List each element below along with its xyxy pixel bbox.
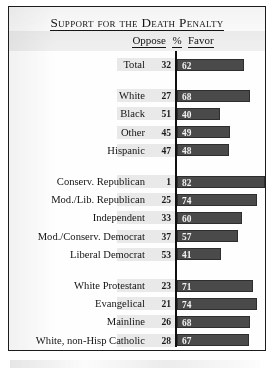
chart-row: Black5140 [9,106,265,121]
row-label: White Protestant [11,278,145,293]
row-label: Black [11,106,145,121]
row-label: Total [11,57,145,72]
row-label: Evangelical [11,296,145,311]
row-label: Other [11,125,145,140]
favor-value: 82 [182,177,191,189]
chart-row: Other4549 [9,125,265,140]
chart-row: White Protestant2371 [9,278,265,293]
row-label: Liberal Democrat [11,247,145,262]
oppose-value: 23 [147,278,171,293]
favor-value: 68 [182,91,191,103]
oppose-value: 21 [147,296,171,311]
favor-bar: 40 [177,108,220,120]
row-label: Mod./Conserv. Democrat [11,229,145,244]
oppose-value: 32 [147,57,171,72]
favor-value: 74 [182,195,191,207]
row-label: Mod./Lib. Republican [11,192,145,207]
chart-row: Mod./Lib. Republican2574 [9,192,265,207]
oppose-value: 27 [147,88,171,103]
oppose-value: 37 [147,229,171,244]
row-label: Independent [11,210,145,225]
row-label: White, non-Hisp Catholic [11,333,145,348]
favor-value: 48 [182,145,191,157]
favor-value: 62 [182,60,191,72]
favor-value: 57 [182,231,191,243]
column-header-favor: Favor [188,34,230,48]
chart-row: Independent3360 [9,210,265,225]
favor-bar: 67 [177,334,249,346]
favor-bar: 71 [177,280,253,292]
favor-bar: 49 [177,126,230,138]
favor-bar: 57 [177,230,238,242]
row-label: Hispanic [11,143,145,158]
column-header-row: Oppose % Favor [9,34,265,48]
favor-value: 68 [182,317,191,329]
column-header-oppose: Oppose [110,34,166,48]
chart-row: Mainline2668 [9,314,265,329]
favor-bar: 62 [177,59,244,71]
chart-row: Conserv. Republican182 [9,174,265,189]
oppose-value: 47 [147,143,171,158]
oppose-value: 26 [147,314,171,329]
favor-bar: 48 [177,144,229,156]
favor-value: 40 [182,109,191,121]
favor-bar: 60 [177,212,242,224]
favor-value: 74 [182,299,191,311]
favor-value: 41 [182,249,191,261]
chart-row: Liberal Democrat5341 [9,247,265,262]
chart-row: White2768 [9,88,265,103]
oppose-value: 45 [147,125,171,140]
chart-title: Support for the Death Penalty [9,15,265,31]
chart-row: Total3262 [9,57,265,72]
chart-title-text: Support for the Death Penalty [50,15,223,31]
favor-bar: 68 [177,316,250,328]
chart-row: Mod./Conserv. Democrat3757 [9,229,265,244]
oppose-value: 25 [147,192,171,207]
chart-row: White, non-Hisp Catholic2867 [9,333,265,348]
row-label: Conserv. Republican [11,174,145,189]
favor-bar: 74 [177,298,257,310]
favor-value: 60 [182,213,191,225]
chart-row: Evangelical2174 [9,296,265,311]
oppose-value: 53 [147,247,171,262]
favor-bar: 68 [177,90,250,102]
oppose-value: 1 [147,174,171,189]
row-label: Mainline [11,314,145,329]
column-header-percent: % [170,34,184,48]
favor-value: 67 [182,335,191,347]
favor-bar: 82 [177,176,265,188]
favor-bar: 74 [177,194,257,206]
oppose-value: 28 [147,333,171,348]
favor-value: 71 [182,281,191,293]
oppose-value: 33 [147,210,171,225]
oppose-value: 51 [147,106,171,121]
row-label: White [11,88,145,103]
favor-bar: 41 [177,248,221,260]
chart-row: Hispanic4748 [9,143,265,158]
chart-card: Support for the Death Penalty Oppose % F… [8,6,266,351]
favor-value: 49 [182,127,191,139]
scan-artifact-strip [10,360,260,368]
